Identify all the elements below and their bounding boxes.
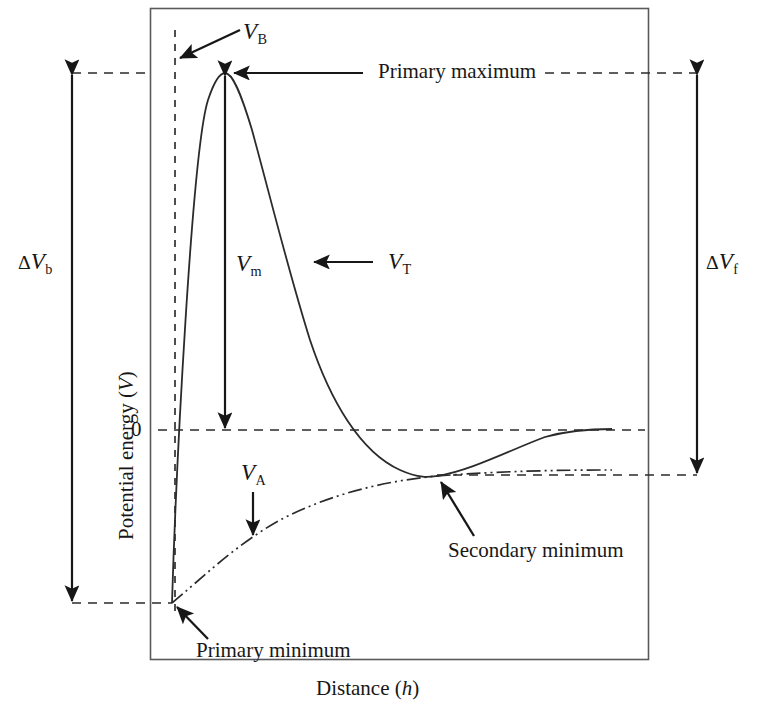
delta-vb-symbol-label: ΔVb <box>18 250 52 276</box>
primary-minimum-label: Primary minimum <box>196 640 351 661</box>
primary-minimum-leader-arrow <box>177 607 208 639</box>
vb-leader-arrow <box>180 30 240 58</box>
vb-symbol-label: VB <box>243 20 267 46</box>
secondary-minimum-leader-arrow <box>441 482 474 536</box>
x-axis-label: Distance (h) <box>316 678 419 699</box>
dlvo-potential-energy-figure: VB Primary maximum Vm VT VA Secondary mi… <box>0 0 758 717</box>
secondary-minimum-label: Secondary minimum <box>448 540 624 561</box>
vt-symbol-label: VT <box>388 250 411 276</box>
va-symbol-label: VA <box>241 461 266 487</box>
vm-symbol-label: Vm <box>236 252 262 278</box>
total-potential-curve <box>172 73 612 603</box>
y-axis-label: Potential energy (V) <box>116 371 137 540</box>
figure-canvas <box>0 0 758 717</box>
attractive-potential-curve <box>172 470 612 603</box>
primary-maximum-label: Primary maximum <box>378 61 536 82</box>
delta-vf-symbol-label: ΔVf <box>706 250 738 276</box>
